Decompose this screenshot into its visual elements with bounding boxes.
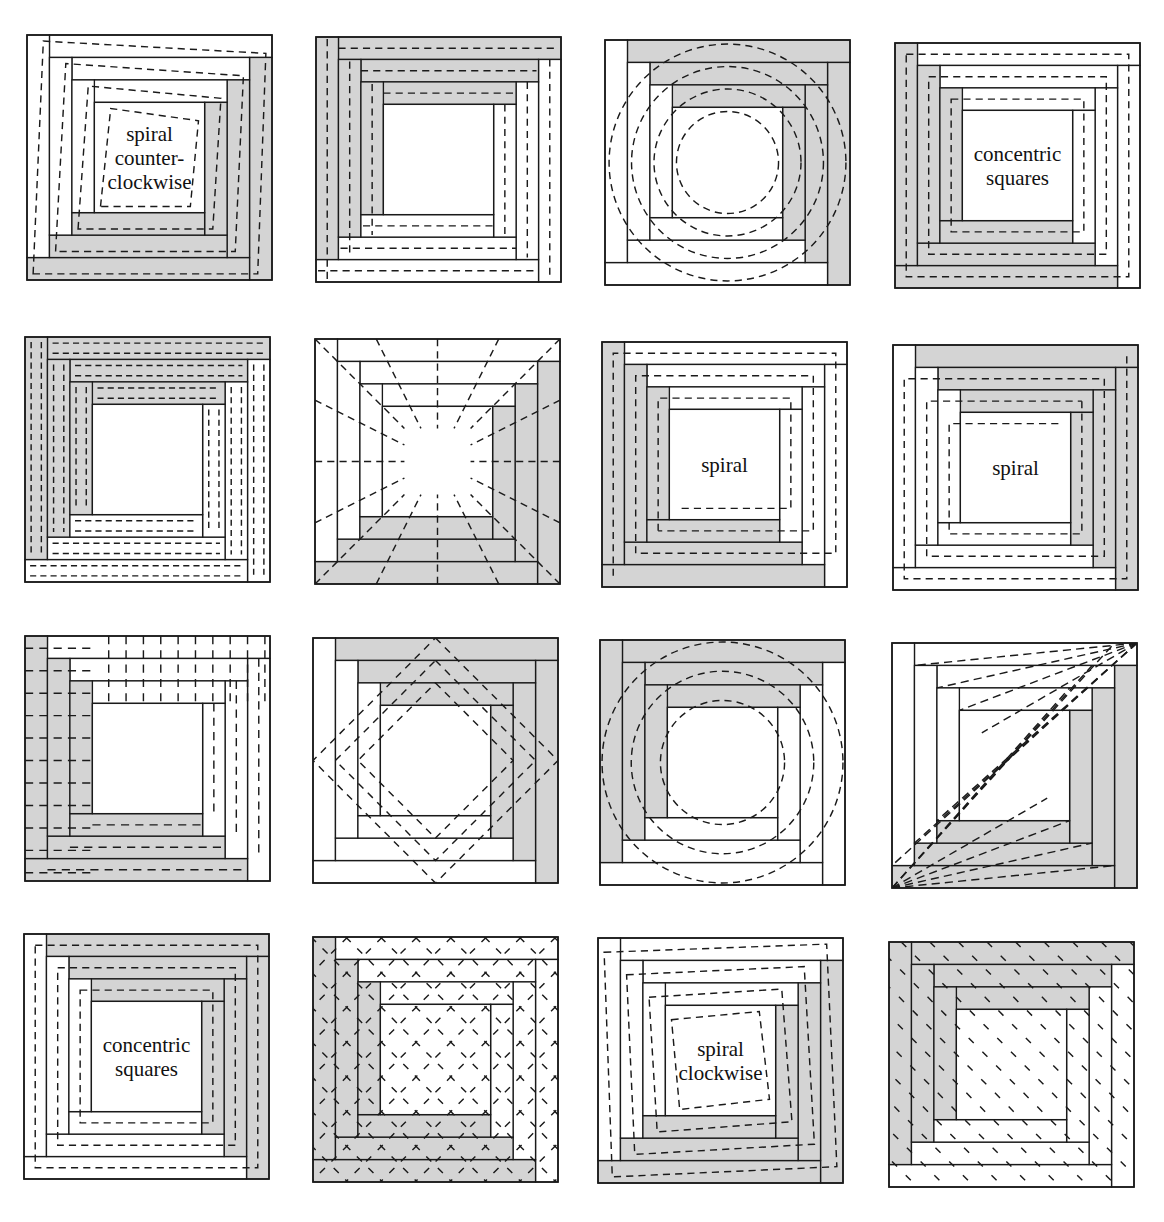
quilt-block-drawing bbox=[892, 643, 1137, 888]
quilt-block-drawing bbox=[598, 938, 843, 1183]
quilt-block-12 bbox=[892, 643, 1137, 888]
quilt-block-11 bbox=[600, 640, 845, 885]
quilt-block-drawing bbox=[602, 342, 847, 587]
quilt-block-13: concentric squares bbox=[24, 934, 269, 1179]
quilt-block-drawing bbox=[25, 337, 270, 582]
quilt-block-drawing bbox=[313, 937, 558, 1182]
quilt-block-drawing bbox=[315, 339, 560, 584]
quilt-block-2 bbox=[316, 37, 561, 282]
quilt-block-4: concentric squares bbox=[895, 43, 1140, 288]
quilt-block-drawing bbox=[895, 43, 1140, 288]
quilt-block-drawing bbox=[893, 345, 1138, 590]
quilt-block-14 bbox=[313, 937, 558, 1182]
quilt-block-drawing bbox=[316, 37, 561, 282]
quilt-block-1: spiral counter- clockwise bbox=[27, 35, 272, 280]
quilt-block-drawing bbox=[600, 640, 845, 885]
quilt-block-drawing bbox=[889, 942, 1134, 1187]
quilt-block-drawing bbox=[25, 636, 270, 881]
quilt-block-drawing bbox=[313, 638, 558, 883]
quilt-block-drawing bbox=[27, 35, 272, 280]
quilt-block-5 bbox=[25, 337, 270, 582]
quilt-block-9 bbox=[25, 636, 270, 881]
quilt-block-7: spiral bbox=[602, 342, 847, 587]
quilt-block-10 bbox=[313, 638, 558, 883]
quilt-block-3 bbox=[605, 40, 850, 285]
quilt-block-16 bbox=[889, 942, 1134, 1187]
quilt-block-6 bbox=[315, 339, 560, 584]
quilt-block-drawing bbox=[24, 934, 269, 1179]
quilt-block-15: spiral clockwise bbox=[598, 938, 843, 1183]
quilt-block-8: spiral bbox=[893, 345, 1138, 590]
quilt-block-drawing bbox=[605, 40, 850, 285]
